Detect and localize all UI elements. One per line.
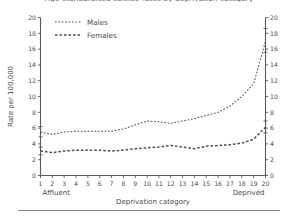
series-layer <box>41 41 266 152</box>
chart-figure: Age-standardised suicide rates by depriv… <box>0 0 298 224</box>
y-tick-label-left: 16 <box>28 45 36 52</box>
y-tick-label-right: 8 <box>270 109 274 116</box>
chart-legend: MalesFemales <box>55 18 117 40</box>
error-bar-females <box>263 121 267 133</box>
x-tick-label: 9 <box>133 180 137 187</box>
series-line-males <box>41 41 266 134</box>
x-tick-label: 4 <box>74 180 78 187</box>
axes-layer <box>38 18 268 179</box>
axis-labels-layer: 0246810121416182002468101214161820123456… <box>7 14 278 206</box>
line-chart-svg: MalesFemales 024681012141618200246810121… <box>0 0 298 224</box>
y-tick-label-right: 14 <box>270 61 278 68</box>
x-tick-label: 8 <box>121 180 125 187</box>
y-tick-label-right: 12 <box>270 77 278 84</box>
y-tick-label-right: 6 <box>270 124 274 131</box>
x-tick-label: 5 <box>86 180 90 187</box>
x-tick-label: 2 <box>50 180 54 187</box>
y-tick-label-right: 0 <box>270 172 274 179</box>
x-tick-label: 7 <box>110 180 114 187</box>
y-tick-label-left: 12 <box>28 77 36 84</box>
x-right-end-label: Deprived <box>233 189 265 197</box>
y-axis-title: Rate per 100,000 <box>7 66 15 127</box>
x-tick-label: 18 <box>238 180 246 187</box>
x-tick-label: 15 <box>202 180 210 187</box>
y-tick-label-right: 4 <box>270 140 274 147</box>
y-tick-label-left: 0 <box>32 172 36 179</box>
x-tick-label: 17 <box>226 180 234 187</box>
x-left-end-label: Affluent <box>43 189 71 197</box>
y-tick-label-left: 20 <box>28 14 36 21</box>
footer-divider <box>18 210 280 211</box>
x-tick-label: 13 <box>179 180 187 187</box>
legend-label-males: Males <box>87 18 108 27</box>
y-tick-label-right: 18 <box>270 30 278 37</box>
y-tick-label-left: 2 <box>32 156 36 163</box>
x-axis-title: Deprivation category <box>116 198 190 206</box>
y-tick-label-left: 14 <box>28 61 36 68</box>
x-tick-label: 20 <box>262 180 270 187</box>
x-tick-label: 11 <box>155 180 163 187</box>
x-tick-label: 14 <box>191 180 199 187</box>
y-tick-label-right: 20 <box>270 14 278 21</box>
y-tick-label-left: 6 <box>32 124 36 131</box>
error-bars-layer <box>38 29 267 155</box>
x-tick-label: 12 <box>167 180 175 187</box>
x-tick-label: 3 <box>62 180 66 187</box>
x-tick-label: 6 <box>98 180 102 187</box>
y-tick-label-right: 10 <box>270 93 278 100</box>
y-tick-label-left: 18 <box>28 30 36 37</box>
x-tick-label: 16 <box>214 180 222 187</box>
x-tick-label: 1 <box>39 180 43 187</box>
y-tick-label-right: 2 <box>270 156 274 163</box>
y-tick-label-right: 16 <box>270 45 278 52</box>
x-tick-label: 10 <box>143 180 151 187</box>
x-tick-label: 19 <box>250 180 258 187</box>
y-tick-label-left: 8 <box>32 109 36 116</box>
y-tick-label-left: 4 <box>32 140 36 147</box>
y-tick-label-left: 10 <box>28 93 36 100</box>
legend-label-females: Females <box>87 31 117 40</box>
